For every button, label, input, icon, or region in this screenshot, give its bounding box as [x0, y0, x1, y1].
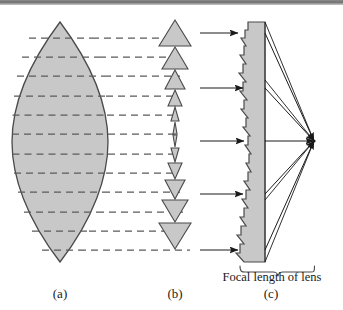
prism-up-6 — [173, 122, 177, 134]
panel-a-label: (a) — [42, 286, 78, 302]
fresnel-lens-diagram — [0, 0, 343, 310]
refracted-rays — [265, 33, 314, 250]
biconvex-lens-body — [12, 22, 108, 262]
panel-b-label: (b) — [157, 286, 193, 302]
panel-a-group — [12, 22, 108, 262]
prism-down-2 — [171, 148, 179, 162]
prism-up-2 — [162, 47, 188, 69]
prism-down-1 — [173, 135, 177, 147]
prism-up-3 — [165, 70, 185, 89]
prism-up-5 — [171, 107, 179, 121]
panel-c-group — [200, 22, 316, 276]
refracted-ray-2 — [265, 88, 314, 141]
refracted-ray-5 — [265, 141, 314, 250]
ray-return-edges — [265, 22, 314, 262]
prism-down-5 — [162, 200, 188, 222]
fresnel-lens-body — [236, 22, 265, 262]
panel-c-label: (c) — [253, 286, 289, 302]
prism-down-6 — [159, 223, 191, 249]
figure-root: (a) (b) (c) Focal length of lens — [0, 0, 343, 310]
prism-down-4 — [165, 180, 185, 199]
focal-point — [312, 139, 315, 142]
refracted-ray-1 — [265, 33, 314, 141]
prism-down-3 — [168, 163, 182, 179]
prism-up-4 — [168, 90, 182, 106]
prism-up-1 — [159, 20, 191, 46]
panel-b-group — [159, 20, 191, 249]
incoming-rays — [200, 33, 244, 250]
refracted-ray-4 — [265, 141, 314, 194]
focal-length-caption: Focal length of lens — [205, 270, 339, 285]
